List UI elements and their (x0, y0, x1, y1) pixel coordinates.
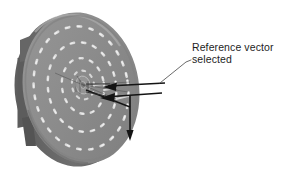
annotation-line-1: Reference vector (192, 42, 278, 54)
annotation-leader-line (160, 60, 191, 83)
annotation-label: Reference vector selected (192, 42, 278, 65)
disc-illustration (0, 0, 282, 179)
annotation-line-2: selected (192, 54, 278, 66)
figure-container: Reference vector selected (0, 0, 282, 179)
